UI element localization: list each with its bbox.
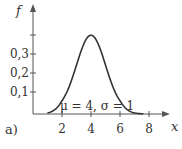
x-tick-label-6: 6 bbox=[116, 122, 124, 136]
y-tick-label-0-3: 0,3 bbox=[10, 47, 29, 61]
x-tick-label-4: 4 bbox=[87, 122, 95, 136]
y-tick-label-0-1: 0,1 bbox=[10, 85, 29, 99]
x-axis-arrow-icon bbox=[162, 111, 170, 117]
x-tick-label-2: 2 bbox=[58, 122, 66, 136]
normal-distribution-chart: f x a) μ = 4, σ = 1 2 4 6 8 0,1 0,2 0,3 bbox=[0, 0, 182, 149]
y-axis-arrow-icon bbox=[30, 4, 36, 12]
x-tick-label-8: 8 bbox=[145, 122, 153, 136]
y-tick-label-0-2: 0,2 bbox=[10, 66, 29, 80]
x-axis-label: x bbox=[171, 119, 179, 134]
parameter-annotation: μ = 4, σ = 1 bbox=[60, 99, 134, 113]
panel-label: a) bbox=[5, 122, 18, 137]
y-axis-label: f bbox=[15, 3, 23, 18]
